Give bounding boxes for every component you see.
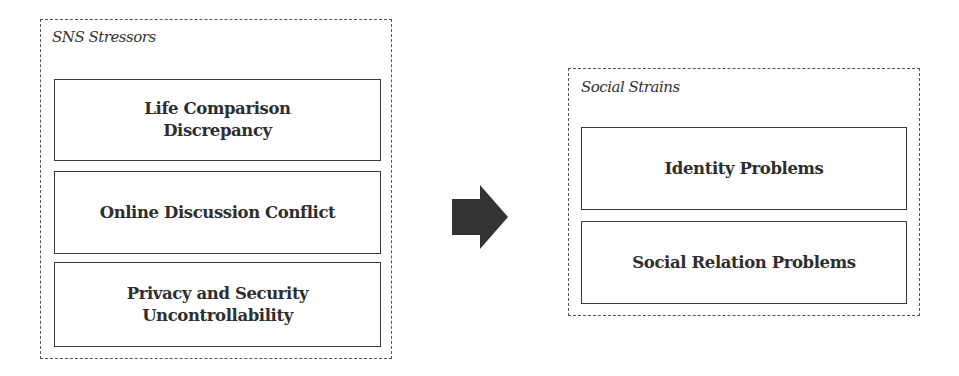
social-strains-title: Social Strains: [581, 78, 680, 96]
node-label: Identity Problems: [665, 158, 824, 180]
right-arrow-icon: [450, 183, 510, 251]
node-life-comparison-discrepancy: Life Comparison Discrepancy: [54, 79, 381, 161]
node-label: Privacy and Security Uncontrollability: [127, 283, 309, 327]
node-privacy-security-uncontrollability: Privacy and Security Uncontrollability: [54, 262, 381, 347]
node-label: Life Comparison Discrepancy: [144, 98, 290, 142]
node-label: Social Relation Problems: [632, 252, 855, 274]
node-social-relation-problems: Social Relation Problems: [581, 221, 907, 304]
node-online-discussion-conflict: Online Discussion Conflict: [54, 171, 381, 254]
node-identity-problems: Identity Problems: [581, 127, 907, 210]
node-label: Online Discussion Conflict: [100, 202, 336, 224]
sns-stressors-title: SNS Stressors: [52, 28, 156, 46]
